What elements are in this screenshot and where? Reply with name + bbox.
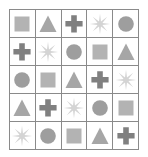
starburst-icon <box>36 40 60 64</box>
circle-icon <box>10 68 34 92</box>
grid-cell[interactable] <box>62 122 87 149</box>
circle-icon <box>62 40 86 64</box>
grid-cell[interactable] <box>113 122 138 149</box>
cross-icon <box>36 96 60 120</box>
grid-cell[interactable] <box>87 122 112 149</box>
grid-cell[interactable] <box>36 10 61 37</box>
triangle-icon <box>36 12 60 36</box>
grid-cell[interactable] <box>113 66 138 93</box>
grid-cell[interactable] <box>113 10 138 37</box>
grid-cell[interactable] <box>87 94 112 121</box>
cross-icon <box>10 40 34 64</box>
square-icon <box>62 124 86 148</box>
starburst-icon <box>62 96 86 120</box>
grid-cell[interactable] <box>10 10 35 37</box>
triangle-icon <box>10 96 34 120</box>
shape-grid <box>9 9 139 150</box>
starburst-icon <box>114 68 138 92</box>
square-icon <box>88 40 112 64</box>
grid-cell[interactable] <box>87 66 112 93</box>
circle-icon <box>88 96 112 120</box>
triangle-icon <box>114 40 138 64</box>
grid-cell[interactable] <box>10 38 35 65</box>
grid-cell[interactable] <box>36 38 61 65</box>
square-icon <box>36 68 60 92</box>
square-icon <box>10 12 34 36</box>
triangle-icon <box>88 124 112 148</box>
grid-cell[interactable] <box>62 10 87 37</box>
circle-icon <box>114 12 138 36</box>
grid-cell[interactable] <box>87 38 112 65</box>
grid-cell[interactable] <box>113 94 138 121</box>
grid-cell[interactable] <box>87 10 112 37</box>
starburst-icon <box>10 124 34 148</box>
cross-icon <box>88 68 112 92</box>
grid-cell[interactable] <box>62 38 87 65</box>
triangle-icon <box>62 68 86 92</box>
grid-cell[interactable] <box>36 94 61 121</box>
grid-cell[interactable] <box>113 38 138 65</box>
grid-cell[interactable] <box>62 94 87 121</box>
grid-cell[interactable] <box>62 66 87 93</box>
grid-cell[interactable] <box>36 122 61 149</box>
cross-icon <box>114 124 138 148</box>
grid-cell[interactable] <box>10 66 35 93</box>
shape-grid-puzzle <box>0 0 148 157</box>
grid-cell[interactable] <box>10 122 35 149</box>
grid-cell[interactable] <box>10 94 35 121</box>
square-icon <box>114 96 138 120</box>
grid-cell[interactable] <box>36 66 61 93</box>
starburst-icon <box>88 12 112 36</box>
cross-icon <box>62 12 86 36</box>
circle-icon <box>36 124 60 148</box>
